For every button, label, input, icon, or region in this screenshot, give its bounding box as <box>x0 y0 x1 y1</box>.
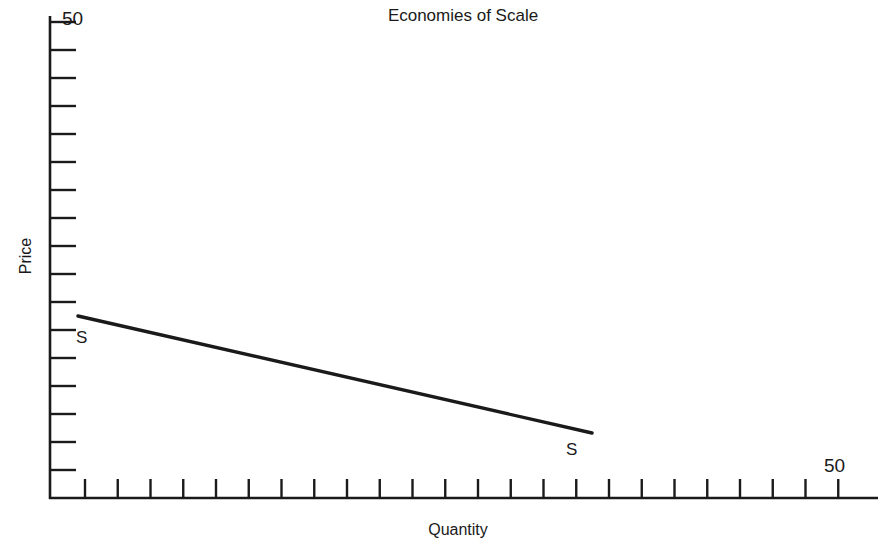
series-supply-line <box>78 316 592 433</box>
y-axis-ticks <box>50 22 76 470</box>
supply-curve <box>78 316 592 433</box>
chart-plot-area <box>0 0 888 553</box>
x-axis-ticks <box>85 479 838 498</box>
chart-container: Economies of Scale 50 50 Price Quantity … <box>0 0 888 553</box>
